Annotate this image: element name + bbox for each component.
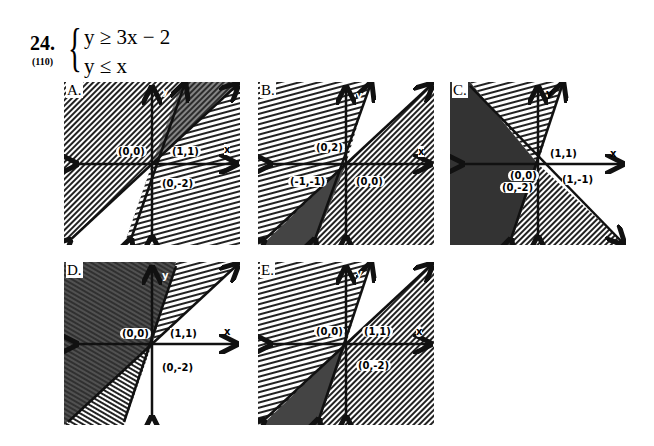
point-label: (0,-2) [160,178,195,189]
x-axis-label: x [418,146,424,157]
point-label: (0,0) [354,176,385,187]
point-label: (1,1) [550,148,577,159]
graph-d-svg [64,262,240,425]
option-b-graph[interactable]: B. (0,2) (-1,-1) (0,0) y x [258,82,434,245]
point-label: (0,-2) [500,182,535,193]
point-label: (0,0) [508,170,539,181]
x-axis-label: x [224,144,230,155]
graph-c-svg [450,82,626,245]
y-axis-label: y [162,86,169,97]
question-number: 24. [30,32,55,55]
y-axis-label: y [162,270,169,281]
graph-b-svg [258,82,434,245]
x-axis-label: x [224,326,230,337]
x-axis-label: x [610,148,616,159]
option-e-graph[interactable]: E. (0,0) (1,1) (0,-2) y x [258,262,434,425]
point-label: (0,-2) [356,360,391,371]
option-b-label: B. [260,82,276,98]
point-label: (1,1) [362,326,393,337]
question-reference: (110) [32,56,53,67]
option-c-label: C. [452,82,468,98]
point-label: (0,2) [314,142,345,153]
point-label: (0,0) [120,328,151,339]
inequality-2: y ≤ x [84,54,127,79]
point-label: (1,1) [170,146,201,157]
point-label: (0,0) [116,146,147,157]
option-c-graph[interactable]: C. (1,1) (0,0) (0,-2) (1,-1) y x [450,82,626,245]
point-label: (0,-2) [162,362,193,373]
point-label: (-1,-1) [288,176,327,187]
option-e-label: E. [260,262,275,278]
y-axis-label: y [546,88,553,99]
option-d-graph[interactable]: D. (0,0) (1,1) (0,-2) y x [64,262,240,425]
x-axis-label: x [416,326,422,337]
option-d-label: D. [66,262,83,278]
graph-a-svg [64,82,240,245]
point-label: (1,1) [170,328,197,339]
point-label: (1,-1) [562,174,593,185]
y-axis-label: y [356,90,363,101]
system-brace: { [68,22,82,74]
option-a-label: A. [66,82,83,98]
y-axis-label: y [356,268,363,279]
point-label: (0,0) [314,326,345,337]
inequality-1: y ≥ 3x − 2 [84,25,170,50]
option-a-graph[interactable]: A. (0,0) (1,1) (0,-2) y x [64,82,240,245]
graph-e-svg [258,262,434,425]
